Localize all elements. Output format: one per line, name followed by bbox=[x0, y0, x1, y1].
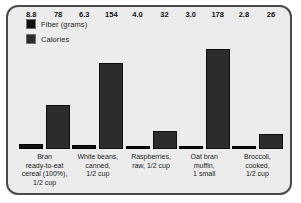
x-axis-tick-line: canned, bbox=[72, 162, 123, 171]
x-axis-tick-line: Raspberries, bbox=[125, 153, 176, 162]
bar-group: 2.826 bbox=[231, 21, 284, 149]
x-axis-tick: Broccoli,cooked,1/2 cup bbox=[231, 153, 284, 187]
bar-value-label: 2.8 bbox=[239, 10, 249, 19]
x-axis-tick-line: cereal (100%), bbox=[19, 170, 70, 179]
chart-figure: Fiber (grams) Calories 8.8786.31544.0323… bbox=[6, 5, 292, 195]
bar-value-label: 8.8 bbox=[26, 10, 36, 19]
bar-value-label: 32 bbox=[160, 10, 168, 19]
x-axis-tick-line: Bran bbox=[19, 153, 70, 162]
bar-group: 8.878 bbox=[18, 21, 71, 149]
x-axis-tick-line: muffin, bbox=[179, 162, 230, 171]
bar-group: 4.032 bbox=[124, 21, 177, 149]
bar-cal: 32 bbox=[153, 21, 177, 149]
bar-rect: 154 bbox=[99, 63, 123, 149]
bar-value-label: 154 bbox=[105, 10, 118, 19]
x-axis-tick: Oat branmuffin,1 small bbox=[178, 153, 231, 187]
x-axis-tick: Raspberries,raw, 1/2 cup bbox=[124, 153, 177, 187]
x-axis-tick-line: ready-to-eat bbox=[19, 162, 70, 171]
bar-fiber: 8.8 bbox=[19, 21, 43, 149]
bar-value-label: 78 bbox=[54, 10, 62, 19]
bar-rect: 6.3 bbox=[72, 145, 96, 149]
bar-rect: 78 bbox=[46, 105, 70, 149]
bar-fiber: 6.3 bbox=[72, 21, 96, 149]
x-axis-tick-line: White beans, bbox=[72, 153, 123, 162]
bar-rect: 32 bbox=[153, 131, 177, 149]
bar-rect: 2.8 bbox=[232, 146, 256, 149]
chart-plot-area: Fiber (grams) Calories 8.8786.31544.0323… bbox=[8, 7, 290, 193]
bar-rect: 26 bbox=[259, 134, 283, 149]
x-axis-tick-line: 1 small bbox=[179, 170, 230, 179]
bar-rect: 178 bbox=[206, 49, 230, 149]
bar-cal: 154 bbox=[99, 21, 123, 149]
x-axis-tick-line: 1/2 cup bbox=[72, 170, 123, 179]
bar-cal: 26 bbox=[259, 21, 283, 149]
x-axis-tick: White beans,canned,1/2 cup bbox=[71, 153, 124, 187]
x-axis-labels: Branready-to-eatcereal (100%),1/2 cupWhi… bbox=[18, 153, 284, 187]
bar-group: 3.0178 bbox=[178, 21, 231, 149]
bar-value-label: 3.0 bbox=[185, 10, 195, 19]
bars-container: 8.8786.31544.0323.01782.826 bbox=[18, 21, 284, 149]
x-axis-tick-line: raw, 1/2 cup bbox=[125, 162, 176, 171]
x-axis-tick-line: 1/2 cup bbox=[19, 179, 70, 188]
bar-value-label: 178 bbox=[211, 10, 224, 19]
bar-value-label: 6.3 bbox=[79, 10, 89, 19]
x-axis-tick: Branready-to-eatcereal (100%),1/2 cup bbox=[18, 153, 71, 187]
bar-groups: 8.8786.31544.0323.01782.826 bbox=[18, 21, 284, 149]
bar-cal: 178 bbox=[206, 21, 230, 149]
x-axis-tick-line: Oat bran bbox=[179, 153, 230, 162]
bar-rect: 8.8 bbox=[19, 144, 43, 149]
x-axis-tick-line: cooked, bbox=[232, 162, 283, 171]
bar-value-label: 4.0 bbox=[132, 10, 142, 19]
x-axis-tick-line: Broccoli, bbox=[232, 153, 283, 162]
bar-fiber: 2.8 bbox=[232, 21, 256, 149]
x-axis-tick-line: 1/2 cup bbox=[232, 170, 283, 179]
bar-rect: 3.0 bbox=[179, 146, 203, 149]
bar-fiber: 3.0 bbox=[179, 21, 203, 149]
bar-fiber: 4.0 bbox=[126, 21, 150, 149]
bar-group: 6.3154 bbox=[71, 21, 124, 149]
bar-value-label: 26 bbox=[267, 10, 275, 19]
bar-cal: 78 bbox=[46, 21, 70, 149]
bar-rect: 4.0 bbox=[126, 146, 150, 149]
